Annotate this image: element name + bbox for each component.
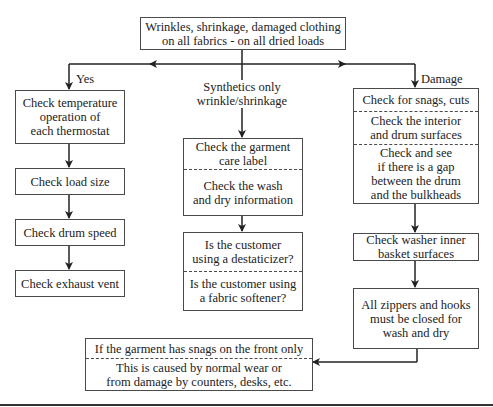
check-drum-speed-text: Check drum speed	[16, 220, 124, 245]
front-snags-box: If the garment has snags on the front on…	[85, 338, 313, 391]
synthetics-branch-label: Synthetics only wrinkle/shrinkage	[185, 80, 299, 108]
check-thermostat-box: Check temperature operation of each ther…	[15, 90, 125, 144]
root-problem-text: Wrinkles, shrinkage, damaged clothing on…	[141, 18, 345, 49]
destaticizer-question-text: Is the customer using a destaticizer?	[184, 233, 302, 271]
drum-gap-text: Check and see if there is a gap between …	[354, 144, 478, 203]
check-load-size-box: Check load size	[15, 168, 125, 195]
care-label-box: Check the garment care label Check the w…	[183, 138, 303, 216]
care-label-text: Check the garment care label	[184, 139, 302, 169]
washer-basket-box: Check washer inner basket surfaces	[353, 233, 479, 261]
damage-branch-label: Damage	[421, 72, 463, 86]
front-snags-condition-text: If the garment has snags on the front on…	[86, 339, 312, 358]
check-thermostat-text: Check temperature operation of each ther…	[16, 91, 124, 143]
check-drum-speed-box: Check drum speed	[15, 219, 125, 246]
customer-questions-box: Is the customer using a destaticizer? Is…	[183, 232, 303, 311]
yes-branch-label: Yes	[76, 72, 94, 86]
check-exhaust-vent-box: Check exhaust vent	[15, 270, 125, 297]
fabric-softener-question-text: Is the customer using a fabric softener?	[184, 271, 302, 310]
zippers-hooks-text: All zippers and hooks must be closed for…	[354, 289, 478, 348]
wash-dry-info-text: Check the wash and dry information	[184, 169, 302, 215]
interior-drum-text: Check the interior and drum surfaces	[354, 111, 478, 144]
root-problem-box: Wrinkles, shrinkage, damaged clothing on…	[140, 17, 346, 50]
check-load-size-text: Check load size	[16, 169, 124, 194]
snags-cuts-text: Check for snags, cuts	[354, 89, 478, 111]
washer-basket-text: Check washer inner basket surfaces	[354, 234, 478, 260]
front-snags-cause-text: This is caused by normal wear or from da…	[86, 358, 312, 390]
zippers-hooks-box: All zippers and hooks must be closed for…	[353, 288, 479, 349]
damage-checks-box: Check for snags, cuts Check the interior…	[353, 88, 479, 204]
check-exhaust-vent-text: Check exhaust vent	[16, 271, 124, 296]
